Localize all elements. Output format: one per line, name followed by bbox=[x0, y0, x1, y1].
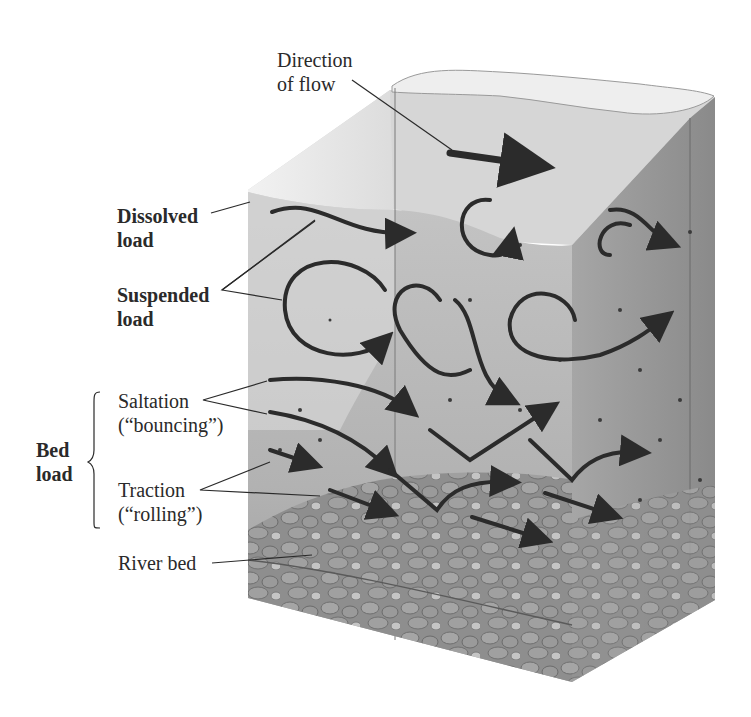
label-saltation: Saltation (“bouncing”) bbox=[118, 389, 224, 437]
label-suspended-load: Suspended load bbox=[117, 283, 209, 331]
label-bed-load: Bed load bbox=[36, 438, 73, 486]
label-dissolved-load: Dissolved load bbox=[117, 204, 198, 252]
sediment-load-diagram bbox=[0, 0, 751, 717]
river-bed-sediment bbox=[248, 473, 715, 683]
label-traction: Traction (“rolling”) bbox=[118, 478, 202, 526]
label-river-bed: River bed bbox=[118, 551, 196, 575]
label-direction-of-flow: Direction of flow bbox=[277, 48, 353, 96]
